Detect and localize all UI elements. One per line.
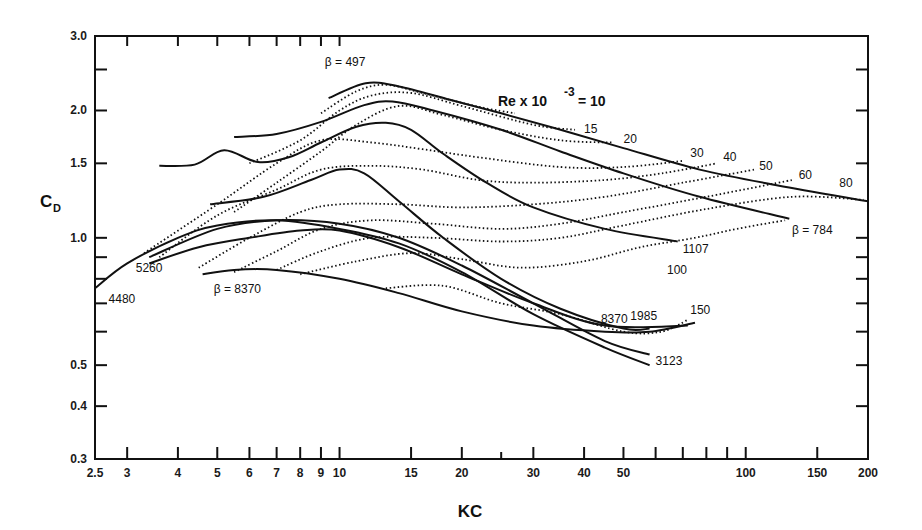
curve-label: 60 [799, 168, 813, 182]
curve-label: 50 [759, 159, 773, 173]
curve-label: 20 [623, 132, 637, 146]
x-tick-label: 5 [214, 466, 221, 480]
curve-label: 30 [690, 146, 704, 160]
curve-label: 40 [723, 150, 737, 164]
y-axis-title-main: C [40, 192, 52, 211]
x-tick-label: 40 [577, 466, 591, 480]
y-tick-label: 0.4 [70, 399, 87, 413]
re-annotation-prefix: Re x 10 [498, 93, 547, 109]
drag-coefficient-chart: 2.53456789101520304050100150200 0.30.40.… [0, 0, 922, 530]
curve-label: 150 [690, 303, 710, 317]
x-tick-label: 6 [246, 466, 253, 480]
curve-labels: β = 497β = 78411071985312344805260β = 83… [109, 55, 853, 368]
re-annotation-exponent: -3 [564, 85, 575, 99]
re-curve [300, 220, 785, 274]
curve-label: β = 8370 [214, 282, 262, 296]
x-axis-title: KC [458, 502, 483, 521]
re-annotation: Re x 10 -3 = 10 [498, 85, 606, 109]
re-curve [144, 139, 683, 253]
y-tick-label: 0.3 [70, 452, 87, 466]
x-tick-label: 15 [404, 466, 418, 480]
curve-label: 5260 [136, 261, 163, 275]
curve-label: 4480 [109, 292, 136, 306]
x-tick-label: 10 [333, 466, 347, 480]
x-tick-label: 7 [273, 466, 280, 480]
y-tick-label: 0.5 [70, 358, 87, 372]
y-axis-title-subscript: D [53, 202, 61, 214]
y-tick-label: 1.5 [70, 156, 87, 170]
y-axis-title: C D [40, 192, 61, 214]
y-tick-label: 3.0 [70, 29, 87, 43]
re-curve [234, 106, 612, 212]
curve-label: 80 [839, 176, 853, 190]
x-tick-label: 100 [736, 466, 756, 480]
y-tick-label: 1.0 [70, 231, 87, 245]
x-tick-label: 150 [807, 466, 827, 480]
re-annotation-suffix: = 10 [578, 93, 606, 109]
x-axis-ticks: 2.53456789101520304050100150200 [87, 36, 879, 480]
curve-label: 100 [667, 263, 687, 277]
x-tick-label: 30 [527, 466, 541, 480]
plot-frame [95, 36, 868, 459]
curve-label: 15 [584, 122, 598, 136]
x-tick-label: 2.5 [87, 466, 104, 480]
re-curve [234, 180, 792, 272]
x-tick-label: 50 [617, 466, 631, 480]
beta-curves [95, 83, 868, 366]
x-tick-label: 20 [455, 466, 469, 480]
x-tick-label: 9 [318, 466, 325, 480]
curve-label: 8370 [601, 312, 628, 326]
x-tick-label: 4 [175, 466, 182, 480]
x-tick-label: 200 [858, 466, 878, 480]
x-tick-label: 3 [124, 466, 131, 480]
curve-label: 1985 [630, 309, 657, 323]
x-tick-label: 8 [297, 466, 304, 480]
y-tick-label: 2.0 [70, 103, 87, 117]
curve-label: β = 784 [792, 223, 833, 237]
curve-label: β = 497 [325, 55, 366, 69]
curve-label: 3123 [656, 354, 683, 368]
curve-label: 1107 [683, 242, 709, 256]
y-axis-ticks: 0.30.40.51.01.52.03.0 [70, 29, 868, 466]
re-curve [199, 170, 755, 268]
